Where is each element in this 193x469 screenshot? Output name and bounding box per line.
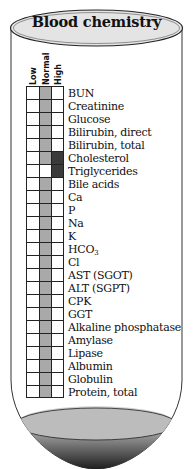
cell-high (51, 177, 64, 190)
cell-normal (39, 229, 52, 242)
test-label: Na (68, 217, 84, 230)
cell-high (51, 294, 64, 307)
cell-high (51, 255, 64, 268)
cell-normal (39, 268, 52, 281)
cell-high (51, 203, 64, 216)
test-label: Creatinine (68, 100, 124, 113)
cell-low (26, 229, 39, 242)
table-row (26, 190, 64, 203)
cell-normal (39, 112, 52, 125)
cell-high (51, 112, 64, 125)
cell-normal (39, 255, 52, 268)
table-row (26, 125, 64, 138)
cell-normal (39, 372, 52, 385)
cell-normal (39, 99, 52, 112)
cell-normal (39, 190, 52, 203)
cell-high (51, 307, 64, 320)
table-row (26, 346, 64, 359)
cell-high (51, 281, 64, 294)
results-grid (26, 86, 64, 398)
test-label: Bilirubin, direct (68, 126, 151, 139)
cell-low (26, 86, 39, 99)
cell-normal (39, 164, 52, 177)
cell-normal (39, 86, 52, 99)
cell-normal (39, 281, 52, 294)
test-label: Cholesterol (68, 152, 129, 165)
test-label: Ca (68, 191, 82, 204)
test-label: CPK (68, 295, 91, 308)
table-row (26, 99, 64, 112)
column-header-normal: Normal (39, 50, 52, 86)
cell-normal (39, 320, 52, 333)
cell-low (26, 385, 39, 398)
table-row (26, 203, 64, 216)
cell-high (51, 359, 64, 372)
cell-normal (39, 346, 52, 359)
cell-low (26, 359, 39, 372)
cell-low (26, 294, 39, 307)
cell-low (26, 281, 39, 294)
test-label: ALT (SGPT) (68, 282, 130, 295)
cell-low (26, 99, 39, 112)
cell-normal (39, 333, 52, 346)
column-header-low: Low (26, 50, 39, 86)
cell-high (51, 86, 64, 99)
cell-normal (39, 203, 52, 216)
table-row (26, 138, 64, 151)
test-label: AST (SGOT) (68, 269, 133, 282)
cell-high (51, 372, 64, 385)
table-row (26, 177, 64, 190)
cell-normal (39, 359, 52, 372)
table-row (26, 151, 64, 164)
cell-normal (39, 177, 52, 190)
test-label: Protein, total (68, 386, 137, 399)
cell-low (26, 203, 39, 216)
cell-high (51, 190, 64, 203)
cell-normal (39, 125, 52, 138)
test-label: Bilirubin, total (68, 139, 144, 152)
cell-normal (39, 242, 52, 255)
cell-low (26, 307, 39, 320)
cell-low (26, 255, 39, 268)
cell-low (26, 268, 39, 281)
table-row (26, 242, 64, 255)
test-label: K (68, 230, 76, 243)
cell-high (51, 138, 64, 151)
cell-low (26, 190, 39, 203)
test-label: BUN (68, 87, 94, 100)
cell-low (26, 151, 39, 164)
table-row (26, 307, 64, 320)
cell-high (51, 320, 64, 333)
cell-low (26, 216, 39, 229)
cell-low (26, 242, 39, 255)
table-row (26, 229, 64, 242)
test-label: Amylase (68, 334, 113, 347)
cell-high (51, 125, 64, 138)
test-label: HCO3 (68, 243, 98, 256)
cell-high (51, 151, 64, 164)
cell-normal (39, 138, 52, 151)
table-row (26, 255, 64, 268)
cell-normal (39, 385, 52, 398)
test-label: Globulin (68, 373, 113, 386)
cell-normal (39, 294, 52, 307)
cell-low (26, 138, 39, 151)
table-row (26, 385, 64, 398)
cell-low (26, 125, 39, 138)
cell-low (26, 320, 39, 333)
test-label: GGT (68, 308, 92, 321)
table-row (26, 333, 64, 346)
cell-low (26, 112, 39, 125)
column-headers: Low Normal High (26, 50, 66, 86)
cell-high (51, 164, 64, 177)
table-row (26, 294, 64, 307)
cell-low (26, 346, 39, 359)
test-label: Albumin (68, 360, 113, 373)
blood-surface (16, 408, 176, 440)
test-label: Glucose (68, 113, 110, 126)
table-row (26, 86, 64, 99)
cell-high (51, 333, 64, 346)
cell-low (26, 164, 39, 177)
chart-title: Blood chemistry (0, 13, 193, 30)
table-row (26, 216, 64, 229)
